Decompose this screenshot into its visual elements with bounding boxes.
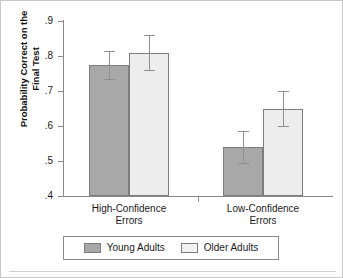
y-tick-label: .9 — [13, 16, 53, 26]
bar-older-adults-high-confidence[interactable] — [129, 53, 169, 196]
x-tick-mark — [198, 197, 199, 202]
legend-swatch-young-adults-icon — [84, 243, 101, 253]
error-bar-stem-young-high — [109, 51, 110, 79]
error-bar-cap-upper-young-low — [238, 131, 249, 132]
error-bar-cap-lower-young-high — [104, 79, 115, 80]
legend-item-older-adults[interactable]: Older Adults — [181, 243, 258, 253]
y-tick-label: .6 — [13, 121, 53, 131]
y-tick-label: .8 — [13, 51, 53, 61]
y-tick-mark — [58, 56, 64, 57]
error-bar-cap-lower-older-low — [278, 126, 289, 127]
legend-label-young-adults: Young Adults — [107, 243, 165, 253]
error-bar-cap-upper-young-high — [104, 51, 115, 52]
error-bar-cap-lower-older-high — [144, 70, 155, 71]
y-tick-mark — [58, 161, 64, 162]
x-category-line2: Errors — [249, 215, 276, 226]
y-tick-label: .7 — [13, 86, 53, 96]
y-tick-label: .5 — [13, 156, 53, 166]
y-tick-mark — [58, 126, 64, 127]
error-bar-cap-upper-older-low — [278, 91, 289, 92]
y-axis-title-line1: Probability Correct on the — [18, 11, 29, 128]
figure-panel: Probability Correct on the Final Test .9… — [0, 0, 343, 278]
x-category-line1: Low-Confidence — [227, 203, 299, 214]
error-bar-cap-lower-young-low — [238, 163, 249, 164]
x-category-line1: High-Confidence — [92, 203, 167, 214]
y-tick-label: .4 — [13, 191, 53, 201]
x-category-line2: Errors — [115, 215, 142, 226]
x-category-label-low-confidence: Low-Confidence Errors — [203, 203, 323, 227]
legend-swatch-older-adults-icon — [181, 243, 198, 253]
error-bar-stem-young-low — [243, 131, 244, 163]
error-bar-stem-older-high — [149, 35, 150, 70]
chart-legend: Young Adults Older Adults — [63, 236, 279, 260]
legend-label-older-adults: Older Adults — [204, 243, 258, 253]
x-category-label-high-confidence: High-Confidence Errors — [69, 203, 189, 227]
bar-young-adults-high-confidence[interactable] — [89, 65, 129, 196]
y-tick-mark — [58, 21, 64, 22]
y-tick-mark — [58, 196, 64, 197]
error-bar-stem-older-low — [283, 91, 284, 126]
figure-bottom-rule — [9, 271, 336, 272]
error-bar-cap-upper-older-high — [144, 35, 155, 36]
y-tick-mark — [58, 91, 64, 92]
y-axis-line — [63, 20, 64, 197]
legend-item-young-adults[interactable]: Young Adults — [84, 243, 165, 253]
